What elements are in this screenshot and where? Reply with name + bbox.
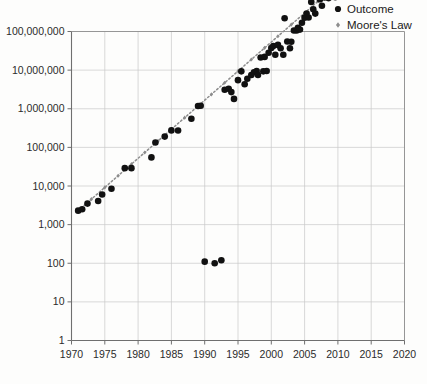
chart-canvas: Outcome Moore's Law 1101001,00010,000100… <box>0 0 427 384</box>
y-tick-label: 10,000,000 <box>12 64 65 76</box>
y-tick-label: 1 <box>59 334 65 346</box>
outcome-point <box>272 51 279 58</box>
outcome-point <box>201 258 208 265</box>
outcome-point <box>99 191 106 198</box>
x-tick-label: 2010 <box>326 348 350 360</box>
y-tick-label: 1,000,000 <box>18 102 65 114</box>
chart-legend: Outcome Moore's Law <box>335 3 413 31</box>
x-tick-label: 2020 <box>393 348 417 360</box>
legend-label-outcome: Outcome <box>347 3 394 15</box>
y-tick-label: 10,000 <box>32 180 64 192</box>
outcome-point <box>161 133 168 140</box>
outcome-point <box>281 15 288 22</box>
x-tick-label: 1995 <box>226 348 250 360</box>
outcome-point <box>228 89 235 96</box>
legend-marker-moores-law-icon <box>336 22 340 27</box>
x-tick-label: 2000 <box>260 348 284 360</box>
x-tick-label: 1980 <box>126 348 150 360</box>
outcome-point <box>238 68 245 75</box>
outcome-point <box>235 77 242 84</box>
outcome-point <box>305 14 312 21</box>
y-tick-label: 100,000,000 <box>6 25 65 37</box>
x-axis-tick-labels: 1970197519801985199019952000200520102015… <box>60 348 417 360</box>
x-tick-label: 2005 <box>293 348 317 360</box>
x-tick-label: 1970 <box>60 348 84 360</box>
outcome-point <box>325 0 332 1</box>
outcome-point <box>319 2 326 9</box>
x-tick-label: 1985 <box>160 348 184 360</box>
outcome-point <box>218 257 225 264</box>
x-tick-label: 1975 <box>93 348 117 360</box>
y-tick-label: 1,000 <box>38 218 64 230</box>
outcome-point <box>297 26 304 33</box>
outcome-point <box>108 185 115 192</box>
moores-law-point <box>210 92 213 96</box>
outcome-point <box>188 115 195 122</box>
outcome-point <box>197 102 204 109</box>
outcome-point <box>152 139 159 146</box>
outcome-point <box>211 260 218 267</box>
y-tick-label: 100,000 <box>27 141 65 153</box>
y-axis-tick-labels: 1101001,00010,000100,0001,000,00010,000,… <box>6 25 65 346</box>
legend-marker-outcome-icon <box>335 6 341 12</box>
outcome-point <box>280 51 287 58</box>
outcome-point <box>263 68 270 75</box>
x-axis-ticks <box>72 341 405 345</box>
transistor-count-scatter-chart: Outcome Moore's Law 1101001,00010,000100… <box>0 0 427 384</box>
x-tick-label: 2015 <box>360 348 384 360</box>
y-tick-label: 100 <box>47 257 65 269</box>
outcome-point <box>288 38 295 45</box>
outcome-point <box>128 165 135 172</box>
outcome-point <box>84 200 91 207</box>
outcome-point <box>95 198 102 205</box>
outcome-point <box>312 10 319 17</box>
y-tick-label: 10 <box>53 295 65 307</box>
outcome-point <box>121 165 128 172</box>
outcome-point <box>277 45 284 52</box>
moores-law-point <box>116 174 119 178</box>
outcome-point <box>231 96 238 103</box>
y-axis-ticks <box>68 32 72 341</box>
outcome-point <box>175 127 182 134</box>
outcome-point <box>287 45 294 52</box>
legend-label-moores-law: Moore's Law <box>347 19 413 31</box>
outcome-point <box>79 206 86 213</box>
x-tick-label: 1990 <box>193 348 217 360</box>
outcome-point <box>148 154 155 161</box>
outcome-point <box>168 127 175 134</box>
